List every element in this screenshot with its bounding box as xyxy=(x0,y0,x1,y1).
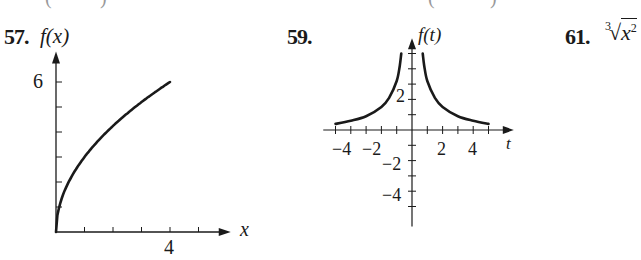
y-axis-arrow xyxy=(408,38,416,49)
curve-f-x xyxy=(56,82,170,232)
curve-f-t-right-branch xyxy=(423,54,489,124)
graphs xyxy=(0,0,641,260)
t-axis-arrow xyxy=(503,126,514,134)
y-axis-arrow xyxy=(52,52,60,64)
curve-f-t-left-branch xyxy=(336,54,402,124)
x-axis-arrow xyxy=(219,228,231,236)
